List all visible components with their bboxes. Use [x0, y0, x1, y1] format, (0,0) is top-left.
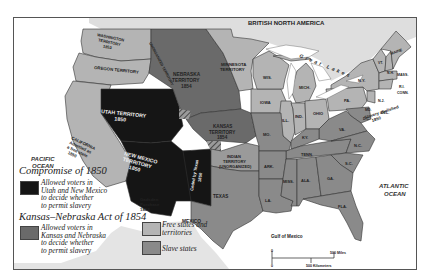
- svg-text:DEL.: DEL.: [381, 111, 389, 115]
- state-connecticut: [379, 79, 393, 89]
- british-north-america-label: BRITISH NORTH AMERICA: [248, 20, 325, 26]
- svg-text:MD.: MD.: [365, 108, 372, 112]
- svg-text:LA.: LA.: [265, 198, 271, 203]
- svg-text:ARK.: ARK.: [264, 164, 274, 169]
- svg-text:IOWA: IOWA: [260, 100, 271, 105]
- legend-swatch-slave: [142, 241, 161, 255]
- svg-text:N.H.: N.H.: [387, 71, 394, 75]
- legend-free-text: Free states and territories: [162, 221, 207, 236]
- svg-text:0: 0: [271, 249, 273, 253]
- svg-text:MINNESOTA TERRITORY: MINNESOTA TERRITORY: [220, 62, 248, 72]
- svg-text:VT.: VT.: [378, 61, 383, 65]
- svg-text:WIS.: WIS.: [263, 75, 272, 80]
- svg-text:MISS.: MISS.: [283, 179, 294, 184]
- svg-text:PA.: PA.: [344, 98, 350, 103]
- svg-text:OHIO: OHIO: [313, 111, 323, 116]
- svg-text:N.C.: N.C.: [354, 143, 362, 148]
- svg-text:500 Kilometers: 500 Kilometers: [306, 264, 332, 268]
- svg-text:ILL.: ILL.: [282, 118, 289, 123]
- legend-compromise-title: Compromise of 1850: [19, 165, 107, 176]
- legend-swatch-compromise: [20, 181, 39, 195]
- svg-text:MASS.: MASS.: [397, 73, 408, 77]
- svg-text:R.I.: R.I.: [399, 85, 405, 89]
- svg-text:VA.: VA.: [339, 127, 345, 132]
- legend-kansas-nebraska-title: Kansas–Nebraska Act of 1854: [19, 211, 146, 222]
- legend-swatch-kansas-nebraska: [20, 226, 39, 240]
- svg-text:GA.: GA.: [327, 176, 334, 181]
- gulf-of-mexico-label: Gulf of Mexico: [271, 234, 303, 239]
- state-new-jersey: [367, 91, 375, 103]
- svg-text:ALA.: ALA.: [301, 178, 310, 183]
- legend-slave-text: Slave states: [162, 245, 197, 253]
- svg-text:N.J.: N.J.: [378, 99, 385, 103]
- map-frame: BRITISH NORTH AMERICA WASHINGTON TERRITO…: [13, 17, 417, 270]
- svg-text:0: 0: [271, 264, 273, 268]
- svg-text:MICH.: MICH.: [299, 85, 310, 90]
- legend-compromise-text: Allowed voters in Utah and New Mexico to…: [41, 179, 107, 209]
- svg-text:CONN.: CONN.: [397, 91, 409, 95]
- svg-text:TENN.: TENN.: [301, 152, 313, 157]
- svg-text:N.Y.: N.Y.: [358, 78, 365, 83]
- texas-label: TEXAS: [213, 194, 228, 199]
- svg-text:S.C.: S.C.: [345, 161, 353, 166]
- svg-text:MO.: MO.: [263, 132, 271, 137]
- svg-text:500 Miles: 500 Miles: [330, 251, 346, 255]
- svg-text:D.C.: D.C.: [363, 117, 370, 121]
- svg-text:KY.: KY.: [302, 135, 308, 140]
- legend-swatch-free: [142, 222, 161, 236]
- legend-kansas-nebraska-text: Allowed voters in Kansas and Nebraska to…: [41, 224, 106, 254]
- svg-text:IND.: IND.: [295, 114, 303, 119]
- svg-text:FLA.: FLA.: [338, 204, 347, 209]
